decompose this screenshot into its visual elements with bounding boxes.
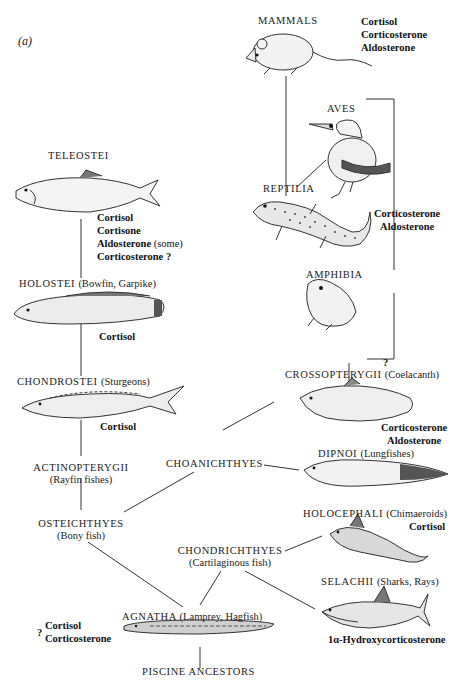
holostei-label: HOLOSTEI (Bowfin, Garpike) <box>19 278 156 290</box>
shark-illustration <box>322 586 430 628</box>
actinopterygii-name: ACTINOPTERYGII <box>28 462 134 474</box>
hormone: Corticosterone <box>374 207 440 220</box>
holocephali-label: HOLOCEPHALI (Chimaeroids) <box>303 508 447 520</box>
tetrapod-bracket-hormones: Corticosterone Aldosterone <box>374 207 440 233</box>
chondrichthyes-name: CHONDRICHTHYES <box>172 545 288 557</box>
holocephali-hormones: Cortisol <box>409 520 445 533</box>
agnatha-name: AGNATHA <box>122 611 176 622</box>
teleostei-label: TELEOSTEI <box>48 150 109 162</box>
hormone: Cortisol <box>100 420 136 433</box>
teleostei-hormones: Cortisol Cortisone Aldosterone (some) Co… <box>97 211 183 264</box>
chondrostei-hormones: Cortisol <box>100 420 136 433</box>
chondrichthyes-common-name: (Cartilaginous fish) <box>172 557 288 569</box>
hormone: Aldosterone <box>361 41 427 54</box>
hormone: Cortisone <box>97 224 183 237</box>
hormone: Aldosterone <box>374 220 440 233</box>
hormone: Corticosterone <box>381 421 447 434</box>
chondrichthyes-label: CHONDRICHTHYES (Cartilaginous fish) <box>172 545 288 569</box>
choanichthyes-label: CHOANICHTHYES <box>166 458 263 470</box>
osteichthyes-common-name: (Bony fish) <box>30 530 132 542</box>
hormone: Cortisol <box>409 520 445 533</box>
hormone: Cortisol <box>45 619 111 632</box>
crossopterygii-common-name: (Coelacanth) <box>385 369 439 380</box>
vertebrate-corticosteroid-phylogeny-diagram: (a) MAMMALS Cortisol Corticosterone Aldo… <box>0 0 466 687</box>
frog-illustration <box>307 279 356 330</box>
holocephali-common-name: (Chimaeroids) <box>386 508 447 519</box>
bowfin-illustration <box>14 292 164 324</box>
sturgeon-illustration <box>22 386 184 418</box>
hormone: Aldosterone <box>97 238 151 249</box>
crossopterygii-question-mark: ? <box>383 356 388 369</box>
selachii-label: SELACHII (Sharks, Rays) <box>321 576 439 588</box>
holocephali-name: HOLOCEPHALI <box>303 508 383 519</box>
hormone-row: Aldosterone (some) <box>97 237 183 250</box>
osteichthyes-label: OSTEICHTHYES (Bony fish) <box>30 518 132 542</box>
dipnoi-name: DIPNOI <box>318 448 357 459</box>
crossopterygii-label: CROSSOPTERYGII (Coelacanth) <box>285 369 439 381</box>
mammals-label: MAMMALS <box>258 15 318 27</box>
agnatha-common-name: (Lamprey, Hagfish) <box>180 611 263 622</box>
hormone: Corticosterone ? <box>97 250 183 263</box>
lizard-illustration <box>253 202 371 248</box>
hormone: Cortisol <box>97 211 183 224</box>
actinopterygii-common-name: (Rayfin fishes) <box>28 474 134 486</box>
holostei-hormones: Cortisol <box>99 330 135 343</box>
crossopterygii-hormones: Corticosterone Aldosterone <box>381 421 447 447</box>
selachii-name: SELACHII <box>321 576 374 587</box>
selachii-hormones: 1α-Hydroxycorticosterone <box>328 633 445 646</box>
hormone: Cortisol <box>99 330 135 343</box>
hormone: Corticosterone <box>361 28 427 41</box>
hormone-note: (some) <box>154 238 183 249</box>
osteichthyes-name: OSTEICHTHYES <box>30 518 132 530</box>
panel-label: (a) <box>18 34 32 49</box>
aves-label: AVES <box>327 103 355 115</box>
bird-illustration <box>309 120 390 198</box>
agnatha-question-mark: ? <box>37 626 42 639</box>
hormone: Corticosterone <box>45 632 111 645</box>
hormone: Cortisol <box>361 15 427 28</box>
hormone: Aldosterone <box>381 434 447 447</box>
chondrostei-name: CHONDROSTEI <box>17 376 98 387</box>
dipnoi-label: DIPNOI (Lungfishes) <box>318 448 414 460</box>
reptilia-label: REPTILIA <box>263 183 314 195</box>
piscine-ancestors-label: PISCINE ANCESTORS <box>142 666 255 678</box>
selachii-common-name: (Sharks, Rays) <box>377 576 439 587</box>
mouse-illustration <box>246 34 372 74</box>
amphibia-label: AMPHIBIA <box>306 269 363 281</box>
chondrostei-common-name: (Sturgeons) <box>101 376 150 387</box>
actinopterygii-label: ACTINOPTERYGII (Rayfin fishes) <box>28 462 134 486</box>
hormone: 1α-Hydroxycorticosterone <box>328 633 445 646</box>
coelacanth-illustration <box>300 378 413 421</box>
chondrostei-label: CHONDROSTEI (Sturgeons) <box>17 376 150 388</box>
lungfish-illustration <box>304 460 448 486</box>
holostei-common-name: (Bowfin, Garpike) <box>78 278 156 289</box>
herring-illustration <box>16 170 160 212</box>
agnatha-hormones: Cortisol Corticosterone <box>45 619 111 645</box>
mammals-hormones: Cortisol Corticosterone Aldosterone <box>361 15 427 54</box>
dipnoi-common-name: (Lungfishes) <box>360 448 414 459</box>
holostei-name: HOLOSTEI <box>19 278 75 289</box>
crossopterygii-name: CROSSOPTERYGII <box>285 369 382 380</box>
agnatha-label: AGNATHA (Lamprey, Hagfish) <box>122 611 262 623</box>
